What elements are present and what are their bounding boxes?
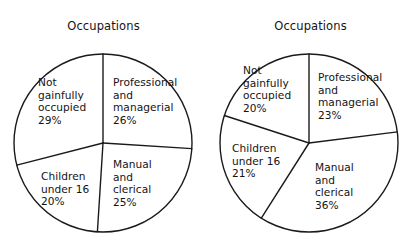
- chart-canvas: Occupations Occupations Not gainfully oc…: [0, 0, 414, 248]
- slice-label-right-manual-and-clerical: Manual and clerical 36%: [315, 161, 354, 211]
- slice-label-right-professional-and-managerial: Professional and managerial 23%: [318, 71, 382, 121]
- slice-label-left-professional-and-managerial: Professional and managerial 26%: [113, 76, 177, 126]
- page-title-right: Occupations: [207, 19, 414, 33]
- slice-label-left-not-gainfully-occupied: Not gainfully occupied 29%: [38, 76, 86, 126]
- pie-chart-right: Occupations: [207, 0, 414, 248]
- slice-label-right-children-under-16: Children under 16 21%: [232, 142, 280, 180]
- slice-label-right-not-gainfully-occupied: Not gainfully occupied 20%: [243, 64, 291, 114]
- slice-label-left-manual-and-clerical: Manual and clerical 25%: [113, 158, 152, 208]
- page-title-left: Occupations: [0, 19, 207, 33]
- slice-label-left-children-under-16: Children under 16 20%: [41, 170, 89, 208]
